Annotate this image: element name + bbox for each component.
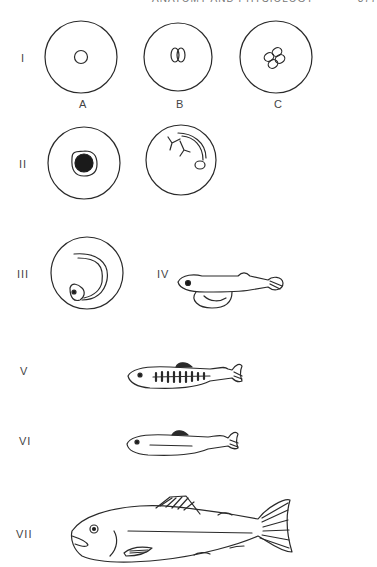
parr-fish-icon (128, 363, 242, 388)
alevin-fish-icon (178, 273, 283, 308)
egg-eyed-embryo-icon (51, 237, 123, 309)
egg-blastoderm-icon (48, 127, 120, 199)
page-number: 377 (358, 0, 377, 4)
adult-fish-icon (71, 496, 292, 562)
egg-two-cell-icon (144, 23, 212, 91)
smolt-fish-icon (127, 431, 238, 455)
egg-embryo-vessels-icon (146, 125, 216, 195)
egg-one-cell-icon (45, 21, 117, 93)
egg-four-cell-icon (240, 21, 312, 93)
